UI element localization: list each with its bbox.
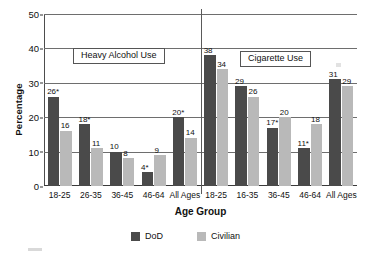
- bar-value-civilian-36-45: 20: [280, 108, 289, 117]
- bar-dod-26-35: [79, 124, 91, 186]
- x-tick-label-2-18-25: 18-25: [205, 190, 227, 200]
- bar-dod-18-25: [204, 55, 216, 186]
- bar-value-dod-18-25: 26*: [47, 87, 59, 96]
- x-tick-label-2-All Ages: All Ages: [326, 190, 357, 200]
- bar-value-civilian-36-45: 8: [123, 149, 127, 158]
- y-tick-label-30: 30: [13, 77, 39, 88]
- bar-value-dod-26-35: 18*: [78, 115, 90, 124]
- chart-legend: DoD Civilian: [0, 231, 371, 241]
- bar-civilian-36-45: [279, 117, 291, 186]
- y-tick-label-50: 50: [13, 9, 39, 20]
- annotation-cigarette-use: Cigarette Use: [240, 51, 311, 67]
- bar-dod-36-45: [110, 152, 122, 186]
- legend-label-dod: DoD: [145, 231, 163, 241]
- bar-value-dod-36-45: 17*: [266, 118, 278, 127]
- bar-dod-16-35: [235, 86, 247, 186]
- bar-dod-All Ages: [173, 117, 185, 186]
- bar-value-dod-18-25: 38: [204, 46, 213, 55]
- bar-dod-18-25: [48, 97, 60, 186]
- legend-item-dod: DoD: [131, 231, 163, 241]
- legend-label-civilian: Civilian: [211, 231, 240, 241]
- bar-civilian-46-64: [154, 155, 166, 186]
- legend-swatch-dod: [131, 232, 140, 241]
- x-tick-label-1-46-64: 46-64: [143, 190, 165, 200]
- x-tick-label-2-46-64: 46-64: [299, 190, 321, 200]
- bar-value-civilian-46-64: 18: [311, 115, 320, 124]
- bar-value-dod-All Ages: 20*: [172, 108, 184, 117]
- bar-civilian-18-25: [217, 69, 229, 186]
- x-tick-label-1-36-45: 36-45: [111, 190, 133, 200]
- bar-value-civilian-All Ages: 14: [186, 128, 195, 137]
- bar-civilian-36-45: [123, 158, 135, 186]
- bar-civilian-18-25: [60, 131, 72, 186]
- bar-value-dod-46-64: 11*: [298, 139, 309, 148]
- bar-dod-46-64: [142, 172, 154, 186]
- bar-value-civilian-16-35: 26: [248, 87, 257, 96]
- y-tick-label-20: 20: [13, 112, 39, 123]
- legend-swatch-civilian: [197, 232, 206, 241]
- bar-civilian-46-64: [311, 124, 323, 186]
- bar-civilian-16-35: [248, 97, 260, 186]
- panel-divider: [201, 9, 202, 194]
- bar-value-dod-All Ages: 31: [329, 70, 338, 79]
- x-axis-title: Age Group: [44, 206, 357, 217]
- bar-value-dod-16-35: 29: [235, 77, 244, 86]
- bar-dod-46-64: [298, 148, 310, 186]
- plot-area: 01020304050 26*1618*111084*920*143834292…: [44, 14, 357, 186]
- x-tick-label-1-26-35: 26-35: [80, 190, 102, 200]
- bar-value-dod-36-45: 10: [110, 142, 119, 151]
- x-tick-label-1-18-25: 18-25: [49, 190, 71, 200]
- bar-civilian-26-35: [91, 148, 103, 186]
- y-tick-label-10: 10: [13, 146, 39, 157]
- scan-artifact: [28, 248, 42, 251]
- x-tick-label-2-36-45: 36-45: [268, 190, 290, 200]
- y-tick-label-40: 40: [13, 43, 39, 54]
- bar-value-civilian-All Ages: 29: [342, 77, 351, 86]
- bar-dod-All Ages: [329, 79, 341, 186]
- x-tick-label-2-16-35: 16-35: [237, 190, 259, 200]
- bar-value-civilian-18-25: 34: [217, 60, 226, 69]
- bar-civilian-All Ages: [185, 138, 197, 186]
- bar-chart: Percentage 01020304050 26*1618*111084*92…: [0, 0, 371, 256]
- legend-item-civilian: Civilian: [197, 231, 240, 241]
- y-tick-label-0: 0: [13, 181, 39, 192]
- x-tick-label-1-All Ages: All Ages: [169, 190, 200, 200]
- bar-civilian-All Ages: [342, 86, 354, 186]
- bar-value-dod-46-64: 4*: [141, 163, 149, 172]
- bar-value-civilian-46-64: 9: [155, 146, 159, 155]
- bar-dod-36-45: [267, 128, 279, 186]
- scan-artifact-2: [336, 63, 341, 67]
- bar-value-civilian-18-25: 16: [61, 121, 70, 130]
- bar-value-civilian-26-35: 11: [92, 139, 100, 148]
- annotation-heavy-alcohol-use: Heavy Alcohol Use: [73, 48, 165, 64]
